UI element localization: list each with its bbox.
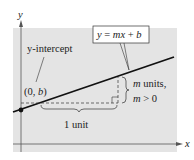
rise-label-line2: m > 0 — [133, 93, 157, 104]
equation-text: y = mx + b — [96, 29, 142, 40]
y-axis-arrow-icon — [19, 20, 23, 27]
rise-label-line1: m units, — [133, 78, 166, 89]
slope-intercept-diagram: y x 1 unit m units, m > 0 y = mx + b y-i… — [0, 0, 194, 160]
intercept-point-label: (0, b) — [24, 86, 47, 98]
y-axis-label: y — [17, 9, 23, 20]
run-label: 1 unit — [64, 119, 88, 130]
x-axis-arrow-icon — [176, 142, 183, 146]
intercept-point — [19, 108, 24, 113]
x-axis-label: x — [184, 138, 190, 149]
y-intercept-label: y-intercept — [27, 43, 73, 54]
